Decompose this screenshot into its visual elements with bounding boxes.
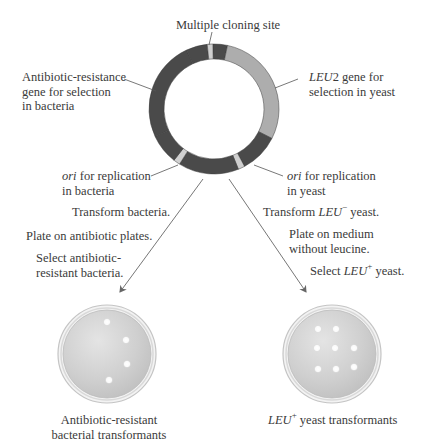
- bacteria-step-select-line-2: resistant bacteria.: [36, 266, 123, 281]
- mcs-leader-line: [209, 32, 212, 45]
- ori-yeast-rest: for replication: [302, 169, 376, 183]
- bacterial-colony: [123, 360, 130, 367]
- yeast-result-post: yeast transformants: [297, 413, 398, 427]
- bacterial-colony: [122, 336, 129, 343]
- leu2-gene-label: LEU2 gene for selection in yeast: [309, 70, 395, 99]
- yeast-step-select: Select LEU+ yeast.: [310, 264, 404, 279]
- bacteria-step-plate: Plate on antibiotic plates.: [26, 229, 152, 244]
- ori-bacteria-ital: ori: [62, 169, 77, 183]
- leu2-gene-suffix: 2 gene for: [333, 70, 384, 84]
- leu2-gene-line-2: selection in yeast: [309, 85, 395, 100]
- bacteria-step-select: Select antibiotic- resistant bacteria.: [36, 251, 123, 280]
- yeast-step1-post: yeast.: [347, 205, 379, 219]
- ori-yeast-line-2: in yeast: [287, 184, 376, 199]
- yeast-colony: [350, 344, 357, 351]
- antibiotic-gene-label: Antibiotic-resistance gene for selection…: [22, 70, 126, 114]
- yeast-step1-gene: LEU: [318, 205, 342, 219]
- leu2-leader-line: [275, 79, 298, 88]
- yeast-colony: [332, 325, 339, 332]
- yeast-colony: [314, 365, 321, 372]
- yeast-step2-line-1: Plate on medium: [289, 227, 374, 242]
- yeast-step2-line-2: without leucine.: [289, 242, 374, 257]
- plasmid-segment-antibiotic: [149, 50, 193, 136]
- yeast-result-gene: LEU: [268, 413, 292, 427]
- plasmid-ring: [149, 44, 279, 174]
- yeast-colony: [331, 344, 338, 351]
- antibiotic-gene-line-1: Antibiotic-resistance: [22, 70, 126, 85]
- bacterial-colony: [105, 376, 112, 383]
- diagram-canvas: [0, 0, 427, 447]
- yeast-colony: [314, 325, 321, 332]
- antibiotic-gene-line-3: in bacteria: [22, 99, 126, 114]
- antibiotic-leader-line: [124, 79, 156, 91]
- yeast-step3-pre: Select: [310, 264, 344, 278]
- yeast-petri-plate: [283, 305, 381, 403]
- ori-bacteria-label: ori for replication in bacteria: [62, 169, 151, 198]
- bacterial-petri-plate: [58, 305, 156, 403]
- bacteria-result-line-2: bacterial transformants: [48, 428, 170, 443]
- bacteria-result-label: Antibiotic-resistant bacterial transform…: [48, 413, 170, 442]
- ori-bacteria-line-2: in bacteria: [62, 184, 151, 199]
- yeast-step1-pre: Transform: [263, 205, 318, 219]
- mcs-label: Multiple cloning site: [176, 18, 280, 33]
- leu2-gene-name: LEU: [309, 70, 333, 84]
- plasmid-segment-leu2: [224, 45, 279, 138]
- bacteria-step-transform: Transform bacteria.: [72, 205, 170, 220]
- bacteria-step-select-line-1: Select antibiotic-: [36, 251, 123, 266]
- ori-yeast-ital: ori: [287, 169, 302, 183]
- yeast-colony: [332, 365, 339, 372]
- yeast-result-label: LEU+ yeast transformants: [268, 413, 397, 428]
- antibiotic-gene-line-2: gene for selection: [22, 85, 126, 100]
- yeast-colony: [350, 363, 357, 370]
- yeast-step-transform: Transform LEU− yeast.: [263, 205, 379, 220]
- ori-bacteria-leader-line: [151, 165, 178, 176]
- yeast-step3-post: yeast.: [372, 264, 404, 278]
- bacterial-colony: [103, 318, 110, 325]
- yeast-step3-gene: LEU: [344, 264, 368, 278]
- plasmid-segment-bottom: [180, 151, 239, 174]
- ori-yeast-leader-line: [254, 165, 283, 176]
- bacteria-result-line-1: Antibiotic-resistant: [48, 413, 170, 428]
- yeast-step-plate: Plate on medium without leucine.: [289, 227, 374, 256]
- ori-yeast-label: ori for replication in yeast: [287, 169, 376, 198]
- yeast-colony: [313, 344, 320, 351]
- ori-bacteria-rest: for replication: [77, 169, 151, 183]
- plasmid-segment-right-lower: [237, 132, 271, 167]
